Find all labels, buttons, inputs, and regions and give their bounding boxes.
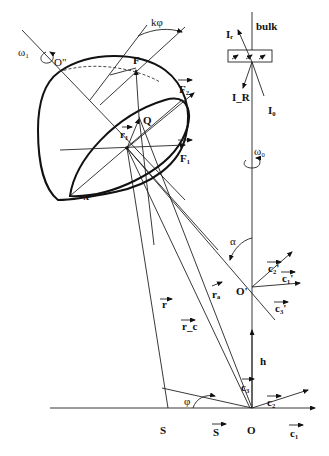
kphi-line-2 (100, 27, 185, 105)
label-alpha: α (230, 235, 236, 247)
label-omega0: ω₀ (254, 145, 265, 157)
label-I-r: Iᵣ (226, 28, 233, 40)
label-r-c: r_c (182, 320, 197, 332)
mirror-center-point (125, 146, 129, 150)
label-c3-prime: c₃' (275, 302, 286, 314)
ra-vector-line (139, 117, 252, 408)
QF-vector (136, 70, 139, 117)
label-c2: c₂ (267, 396, 276, 408)
ray-IR (243, 62, 252, 88)
incident-ray-I0 (252, 62, 264, 96)
omega1-rotation-icon (41, 52, 53, 63)
label-F2: F₂ (179, 83, 190, 95)
label-h: h (260, 355, 266, 367)
label-r: r (162, 298, 167, 310)
label-phi: φ (184, 395, 190, 407)
label-S-vector: S (213, 426, 219, 438)
label-r1: r₁ (120, 128, 128, 140)
label-I-R: I_R (232, 91, 251, 103)
label-c1-prime: c₁' (282, 272, 293, 284)
phi-ray (162, 388, 252, 408)
c2-vector (252, 390, 308, 408)
label-Q: Q (143, 114, 152, 126)
F1-vector (60, 145, 185, 150)
vector-overbars (122, 80, 303, 425)
bulk-crystal (228, 50, 272, 62)
label-r-a: rₐ (212, 288, 221, 300)
diagram-svg: ω₁ O" kφ F F₂ Q r₁ F₁ π bulk Iᵣ I_R I₀ ω… (0, 0, 329, 456)
label-omega1: ω₁ (18, 46, 29, 58)
label-bulk: bulk (256, 20, 278, 32)
rc-vector-line (127, 148, 250, 408)
kphi-arc (138, 29, 182, 36)
label-c3: c₃ (241, 381, 250, 393)
label-O: O (247, 424, 256, 436)
label-S-point: S (160, 424, 166, 436)
label-O-double-prime: O" (54, 56, 66, 68)
label-F: F (133, 54, 140, 66)
label-F1: F₁ (180, 152, 190, 164)
label-c2-prime: c₂' (268, 262, 279, 274)
label-k-phi: kφ (151, 16, 163, 28)
label-I-0: I₀ (268, 104, 276, 116)
label-O-prime: O' (236, 285, 248, 297)
label-c1: c₁ (290, 427, 298, 439)
label-pi: π (83, 190, 89, 202)
diagram-canvas: ω₁ O" kφ F F₂ Q r₁ F₁ π bulk Iᵣ I_R I₀ ω… (0, 0, 329, 456)
